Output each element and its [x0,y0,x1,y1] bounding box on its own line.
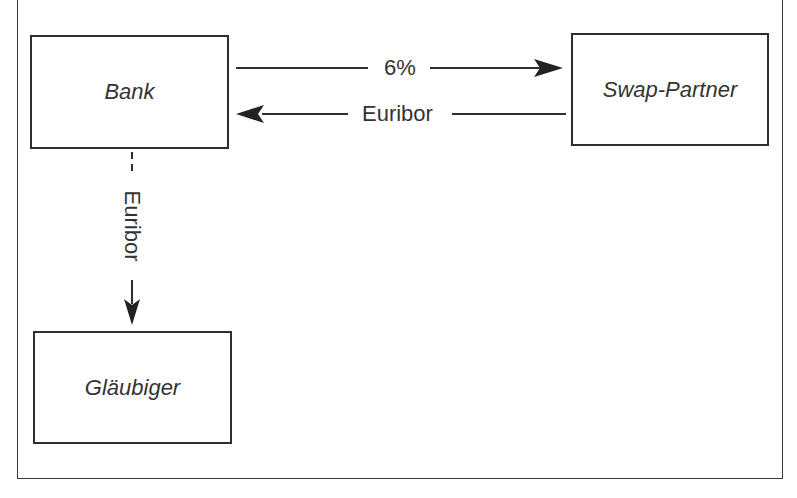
edge-label-fixed-rate: 6% [384,57,416,79]
node-glaeubiger-label: Gläubiger [85,375,180,401]
node-bank-label: Bank [104,79,154,105]
node-bank: Bank [30,35,229,149]
arrow-euribor-vertical [124,280,140,325]
node-swap-partner: Swap-Partner [571,33,769,146]
node-glaeubiger: Gläubiger [33,331,232,444]
node-swap-partner-label: Swap-Partner [603,77,738,103]
edge-label-euribor-horizontal: Euribor [362,103,433,125]
edge-label-euribor-vertical: Euribor [121,191,143,262]
